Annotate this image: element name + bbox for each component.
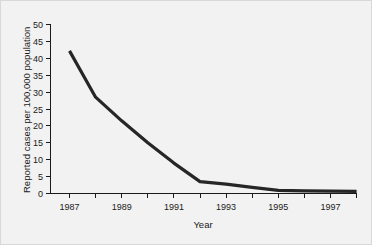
y-tick-15: 15 bbox=[33, 138, 51, 148]
x-tick-1995: 1995 bbox=[268, 194, 288, 213]
y-tick-50: 50 bbox=[33, 20, 51, 30]
x-tick-1993: 1993 bbox=[216, 194, 236, 213]
y-tick-0: 0 bbox=[38, 189, 51, 199]
y-tick-20: 20 bbox=[33, 121, 51, 131]
line-chart: Reported cases per 100,000 population 50… bbox=[1, 1, 372, 245]
y-tick-30: 30 bbox=[33, 88, 51, 98]
x-ticks: 1987 1989 1991 bbox=[59, 194, 356, 213]
y-tick-label: 15 bbox=[33, 138, 43, 148]
x-tick-1997: 1997 bbox=[320, 194, 340, 213]
axes bbox=[50, 24, 357, 194]
y-tick-label: 45 bbox=[33, 37, 43, 47]
chart-figure: Reported cases per 100,000 population 50… bbox=[0, 0, 372, 245]
y-tick-10: 10 bbox=[33, 155, 51, 165]
x-tick-label: 1993 bbox=[216, 202, 236, 212]
y-axis-title: Reported cases per 100,000 population bbox=[21, 27, 32, 193]
y-tick-label: 35 bbox=[33, 71, 43, 81]
x-axis-title: Year bbox=[193, 219, 212, 230]
x-tick-label: 1995 bbox=[268, 202, 288, 212]
y-tick-label: 20 bbox=[33, 121, 43, 131]
x-tick-1987: 1987 bbox=[59, 194, 79, 213]
y-tick-label: 5 bbox=[38, 172, 43, 182]
y-tick-40: 40 bbox=[33, 54, 51, 64]
x-tick-1991: 1991 bbox=[164, 194, 184, 213]
x-tick-label: 1991 bbox=[164, 202, 184, 212]
x-tick-label: 1997 bbox=[320, 202, 340, 212]
x-tick-label: 1987 bbox=[59, 202, 79, 212]
y-tick-label: 40 bbox=[33, 54, 43, 64]
y-tick-25: 25 bbox=[33, 105, 51, 115]
y-tick-45: 45 bbox=[33, 37, 51, 47]
x-tick-label: 1989 bbox=[112, 202, 132, 212]
y-tick-label: 0 bbox=[38, 189, 43, 199]
data-series-line bbox=[70, 51, 357, 192]
y-tick-label: 30 bbox=[33, 88, 43, 98]
y-tick-5: 5 bbox=[38, 172, 51, 182]
y-tick-label: 50 bbox=[33, 20, 43, 30]
x-tick-1989: 1989 bbox=[112, 194, 132, 213]
y-tick-label: 25 bbox=[33, 105, 43, 115]
y-tick-label: 10 bbox=[33, 155, 43, 165]
y-ticks: 50 45 40 35 30 25 bbox=[33, 20, 51, 199]
y-tick-35: 35 bbox=[33, 71, 51, 81]
